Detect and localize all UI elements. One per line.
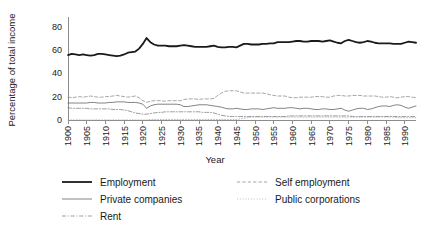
y-tick-label: 40 [52,68,62,78]
y-tick-label: 0 [57,115,62,125]
x-tick-label: 1910 [101,126,111,146]
series-line-self-employment [68,91,416,103]
x-tick-label: 1955 [269,126,279,146]
x-tick-label: 1900 [63,126,73,146]
y-tick-label: 20 [52,92,62,102]
x-tick-label: 1970 [325,126,335,146]
series-line-employment [68,38,416,56]
legend-item[interactable]: Employment [62,177,156,188]
x-tick-label: 1965 [307,126,317,146]
line-chart-svg: 020406080 190019051910191519201925193019… [0,0,431,231]
series-line-public-corporations [68,117,416,120]
x-tick-label: 1925 [157,126,167,146]
x-tick-label: 1990 [400,126,410,146]
legend-item[interactable]: Self employment [237,177,350,188]
legend-item[interactable]: Private companies [62,194,182,205]
legend-label: Private companies [100,194,182,205]
legend-item[interactable]: Public corporations [237,194,360,205]
x-axis-title: Year [205,154,224,165]
legend-label: Employment [100,177,156,188]
chart-legend: EmploymentPrivate companiesRentSelf empl… [62,177,360,222]
x-tick-label: 1945 [232,126,242,146]
x-tick-label: 1935 [194,126,204,146]
chart-figure: 020406080 190019051910191519201925193019… [0,0,431,231]
legend-item[interactable]: Rent [62,211,121,222]
y-axis-title: Percentage of total income [6,13,17,126]
x-tick-label: 1920 [138,126,148,146]
legend-label: Self employment [275,177,350,188]
y-tick-label: 60 [52,45,62,55]
data-series-group [68,38,416,120]
x-tick-label: 1915 [120,126,130,146]
x-tick-label: 1940 [213,126,223,146]
x-tick-label: 1905 [82,126,92,146]
x-tick-label: 1980 [363,126,373,146]
x-axis-tick-labels: 1900190519101915192019251930193519401945… [63,121,410,147]
legend-label: Public corporations [275,194,360,205]
plot-area [69,17,417,121]
x-tick-label: 1985 [382,126,392,146]
y-tick-label: 80 [52,22,62,32]
x-tick-label: 1975 [344,126,354,146]
x-tick-label: 1960 [288,126,298,146]
y-axis-tick-labels: 020406080 [52,22,62,126]
x-tick-label: 1930 [176,126,186,146]
x-tick-label: 1950 [251,126,261,146]
legend-label: Rent [100,211,121,222]
